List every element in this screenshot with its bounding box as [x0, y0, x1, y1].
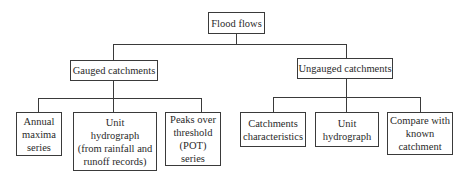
connector-to-unit-hydrograph-ungauged — [346, 97, 347, 112]
node-catchments-characteristics: Catchments characteristics — [240, 112, 306, 147]
node-compare-with-known-catchment: Compare with known catchment — [387, 112, 453, 155]
flood-flows-diagram: Flood flows Gauged catchments Ungauged c… — [0, 0, 466, 173]
node-peaks-over-threshold: Peaks over threshold (POT) series — [165, 112, 221, 166]
connector-to-annual-maxima — [38, 98, 39, 112]
node-ungauged-catchments: Ungauged catchments — [297, 58, 393, 79]
node-flood-flows: Flood flows — [208, 12, 265, 34]
connector-level1-horizontal — [113, 44, 347, 45]
connector-root-down — [236, 34, 237, 44]
connector-to-ungauged — [346, 44, 347, 58]
node-unit-hydrograph-ungauged: Unit hydrograph — [315, 112, 379, 147]
node-gauged-catchments: Gauged catchments — [70, 60, 158, 81]
connector-to-compare — [420, 97, 421, 112]
connector-to-gauged — [113, 44, 114, 60]
connector-ungauged-horizontal — [273, 97, 421, 98]
node-unit-hydrograph-gauged: Unit hydrograph (from rainfall and runof… — [73, 112, 157, 171]
connector-gauged-down — [113, 81, 114, 98]
connector-to-unit-hydrograph-gauged — [113, 98, 114, 112]
connector-gauged-horizontal — [38, 98, 202, 99]
connector-to-pot — [201, 98, 202, 112]
node-annual-maxima-series: Annual maxima series — [16, 112, 62, 156]
connector-to-catchment-characteristics — [273, 97, 274, 112]
connector-ungauged-down — [346, 79, 347, 97]
